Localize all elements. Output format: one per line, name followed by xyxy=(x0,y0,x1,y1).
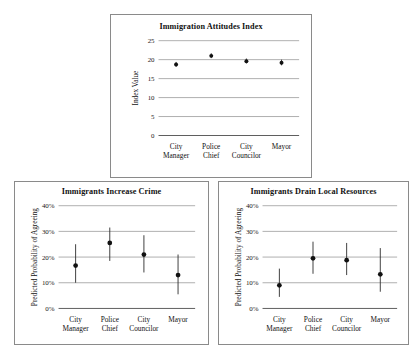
y-tick-label: 10% xyxy=(246,279,259,286)
y-tick-label: 15 xyxy=(148,75,155,82)
x-tick-label: Chief xyxy=(203,151,220,160)
data-point-marker xyxy=(378,272,383,277)
data-point-marker xyxy=(174,63,178,67)
chart-plot-area: 0%10%20%30%40%CityManagerPoliceChiefCity… xyxy=(15,182,208,344)
y-tick-label: 10 xyxy=(148,94,155,101)
x-tick-label: Chief xyxy=(305,324,322,333)
x-tick-label: City xyxy=(340,315,353,324)
x-tick-label: City xyxy=(273,315,286,324)
y-axis-title: Predicted Probability of Agreeing xyxy=(234,208,243,307)
y-tick-label: 20% xyxy=(42,254,55,261)
y-tick-label: 10% xyxy=(42,279,55,286)
x-tick-label: Police xyxy=(101,315,119,324)
data-point-marker xyxy=(344,258,349,263)
x-tick-label: Manager xyxy=(63,324,90,333)
x-tick-label: Mayor xyxy=(272,142,292,151)
x-tick-label: Manager xyxy=(163,151,190,160)
x-tick-label: Councilor xyxy=(129,324,159,333)
panel-immigrants-increase-crime: Immigrants Increase Crime 0%10%20%30%40%… xyxy=(14,181,209,345)
x-tick-label: Councilor xyxy=(332,324,362,333)
y-tick-label: 30% xyxy=(42,228,55,235)
data-point-marker xyxy=(142,252,147,257)
x-tick-label: Councilor xyxy=(232,151,262,160)
panel-immigration-attitudes-index: Immigration Attitudes Index 0510152025Ci… xyxy=(110,14,312,178)
y-tick-label: 40% xyxy=(246,202,259,209)
panel-immigrants-drain-local-resources: Immigrants Drain Local Resources 0%10%20… xyxy=(218,181,409,345)
x-tick-label: Police xyxy=(202,142,220,151)
data-point-marker xyxy=(311,256,316,261)
data-point-marker xyxy=(107,241,112,246)
x-tick-label: City xyxy=(170,142,183,151)
x-tick-label: City xyxy=(138,315,151,324)
x-tick-label: Chief xyxy=(102,324,119,333)
y-tick-label: 0 xyxy=(151,132,155,139)
y-tick-label: 0% xyxy=(45,305,54,312)
data-point-marker xyxy=(209,54,213,58)
data-point-marker xyxy=(280,61,284,65)
y-tick-label: 30% xyxy=(246,228,259,235)
y-tick-label: 40% xyxy=(42,202,55,209)
data-point-marker xyxy=(73,263,78,268)
x-tick-label: City xyxy=(240,142,253,151)
y-axis-title: Predicted Probability of Agreeing xyxy=(30,208,39,307)
data-point-marker xyxy=(176,273,181,278)
data-point-marker xyxy=(244,59,248,63)
x-tick-label: Police xyxy=(304,315,322,324)
x-tick-label: City xyxy=(69,315,82,324)
chart-plot-area: 0%10%20%30%40%CityManagerPoliceChiefCity… xyxy=(219,182,408,344)
x-tick-label: Manager xyxy=(266,324,293,333)
y-axis-title: Index Value xyxy=(131,71,140,106)
x-tick-label: Mayor xyxy=(371,315,391,324)
data-point-marker xyxy=(277,283,282,288)
y-tick-label: 25 xyxy=(148,37,155,44)
y-tick-label: 20% xyxy=(246,254,259,261)
chart-plot-area: 0510152025CityManagerPoliceChiefCityCoun… xyxy=(111,15,311,177)
x-tick-label: Mayor xyxy=(168,315,188,324)
y-tick-label: 20 xyxy=(148,56,155,63)
y-tick-label: 5 xyxy=(151,113,155,120)
y-tick-label: 0% xyxy=(249,305,258,312)
